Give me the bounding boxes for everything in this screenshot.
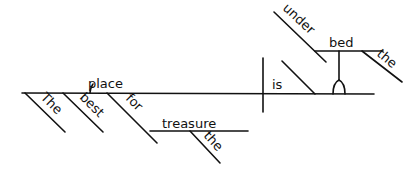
word-the-treasure: the [201, 128, 226, 154]
word-bed: bed [329, 35, 354, 50]
word-best: best [77, 90, 107, 120]
pedestal [333, 80, 345, 94]
verb-slant-line [282, 61, 315, 94]
word-the-bed: the [374, 46, 400, 71]
word-under: under [280, 0, 319, 37]
sentence-diagram: place The best for treasure the is under… [0, 0, 412, 173]
word-treasure: treasure [162, 116, 216, 131]
word-is: is [272, 77, 283, 92]
main-baseline [22, 93, 374, 94]
word-place: place [88, 76, 123, 91]
